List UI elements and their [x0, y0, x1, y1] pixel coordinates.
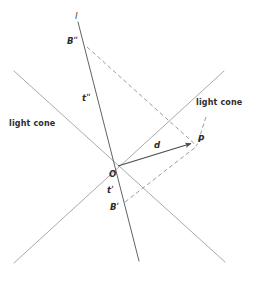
dashed-segment-upper-right [197, 117, 206, 145]
spacetime-diagram-svg [0, 0, 257, 284]
vector-d-o-to-p [118, 144, 191, 167]
dashed-segment-bpast-p [125, 146, 197, 202]
figure-canvas: l Bʺ tʺ light cone light cone d P O tʹ B… [0, 0, 257, 284]
worldline-l [78, 22, 139, 261]
dashed-segment-bfuture-p [87, 47, 197, 146]
